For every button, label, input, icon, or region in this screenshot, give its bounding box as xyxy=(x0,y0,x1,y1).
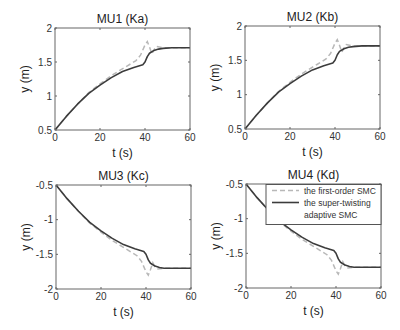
subplot-title: MU4 (Kd) xyxy=(288,168,339,182)
x-axis-label: t (s) xyxy=(113,305,134,319)
x-tick-label: 60 xyxy=(374,131,386,142)
figure: MU1 (Ka)02040600.511.52t (s)y (m) MU2 (K… xyxy=(0,0,400,330)
legend-label: the first-order SMC xyxy=(304,186,376,196)
y-tick-label: -0.5 xyxy=(36,180,54,191)
x-tick-label: 20 xyxy=(95,291,107,302)
x-tick-label: 40 xyxy=(329,131,341,142)
y-tick-label: 0.5 xyxy=(38,125,52,136)
subplot-mu2: MU2 (Kb)02040600.511.52t (s)y (m) xyxy=(208,10,386,159)
series-super-twisting-smc xyxy=(55,48,190,130)
y-tick-label: -0.5 xyxy=(226,179,244,190)
y-tick-label: -1.5 xyxy=(226,248,244,259)
y-axis-label: y (m) xyxy=(19,223,33,250)
x-tick-label: 60 xyxy=(184,132,196,143)
legend-label: adaptive SMC xyxy=(304,210,357,220)
y-tick-label: -1 xyxy=(234,213,243,224)
plot-area xyxy=(245,40,380,129)
legend: the first-order SMCthe super-twistingada… xyxy=(266,185,381,225)
y-tick-label: 1 xyxy=(46,91,52,102)
x-tick-label: 40 xyxy=(139,132,151,143)
y-tick-label: 1 xyxy=(236,89,242,100)
plot-area xyxy=(55,42,190,130)
y-tick-label: -2 xyxy=(44,284,53,295)
subplot-mu1: MU1 (Ka)02040600.511.52t (s)y (m) xyxy=(18,12,196,160)
subplot-title: MU2 (Kb) xyxy=(287,10,338,24)
series-first-order-smc xyxy=(55,42,190,130)
y-tick-label: 1.5 xyxy=(38,57,52,68)
y-tick-label: 1.5 xyxy=(228,55,242,66)
axes-frame xyxy=(245,26,380,129)
x-axis-label: t (s) xyxy=(112,146,133,160)
x-tick-label: 0 xyxy=(242,131,248,142)
x-axis-label: t (s) xyxy=(303,304,324,318)
y-tick-label: 0.5 xyxy=(228,124,242,135)
y-tick-label: 2 xyxy=(236,21,242,32)
x-tick-label: 40 xyxy=(330,290,342,301)
x-tick-label: 40 xyxy=(140,291,152,302)
legend-label: the super-twisting xyxy=(304,198,371,208)
y-tick-label: -1 xyxy=(44,214,53,225)
x-tick-label: 0 xyxy=(243,290,249,301)
subplot-title: MU3 (Kc) xyxy=(98,169,149,183)
series-first-order-smc xyxy=(56,185,191,275)
y-axis-label: y (m) xyxy=(209,222,223,249)
x-tick-label: 20 xyxy=(285,290,297,301)
x-tick-label: 20 xyxy=(284,131,296,142)
series-super-twisting-smc xyxy=(56,185,191,268)
subplot-mu4: MU4 (Kd)0204060-2-1.5-1-0.5t (s)y (m)the… xyxy=(209,168,387,318)
x-axis-label: t (s) xyxy=(302,145,323,159)
x-tick-label: 0 xyxy=(52,132,58,143)
subplot-mu3: MU3 (Kc)0204060-2-1.5-1-0.5t (s)y (m) xyxy=(19,169,197,319)
series-first-order-smc xyxy=(245,40,380,129)
axes-frame xyxy=(55,28,190,130)
y-tick-label: 2 xyxy=(46,23,52,34)
plot-area xyxy=(56,185,191,275)
subplot-title: MU1 (Ka) xyxy=(97,12,148,26)
axes-frame xyxy=(56,185,191,289)
x-tick-label: 20 xyxy=(94,132,106,143)
x-tick-label: 60 xyxy=(185,291,197,302)
x-tick-label: 0 xyxy=(53,291,59,302)
y-axis-label: y (m) xyxy=(208,64,222,91)
series-super-twisting-smc xyxy=(245,46,380,129)
x-tick-label: 60 xyxy=(375,290,387,301)
y-axis-label: y (m) xyxy=(18,65,32,92)
y-tick-label: -2 xyxy=(234,283,243,294)
y-tick-label: -1.5 xyxy=(36,249,54,260)
